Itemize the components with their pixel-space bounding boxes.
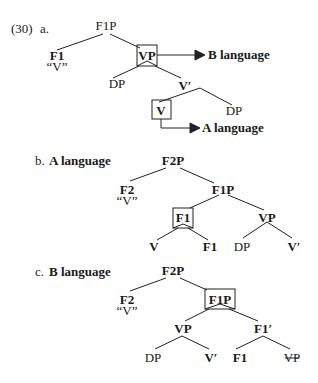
node-vp: VP: [258, 211, 275, 225]
node-v-bar: V′: [204, 351, 217, 365]
node-f1-bar: F1′: [254, 322, 272, 336]
node-f2p: F2P: [162, 264, 184, 278]
node-v: V: [149, 240, 158, 254]
arrow-label-a-language: A language: [202, 121, 264, 135]
node-f1p: F1P: [212, 183, 234, 197]
node-f2p: F2P: [162, 154, 184, 168]
node-dp: DP: [234, 240, 251, 254]
node-f2-gloss: “V”: [117, 304, 138, 318]
node-f1-boxed: F1: [176, 211, 190, 225]
arrow-label-b-language: B language: [208, 48, 270, 62]
node-f1: F1: [233, 351, 247, 365]
node-f1-gloss: “V”: [47, 60, 68, 74]
node-vp-trace-struck: VP: [284, 351, 301, 365]
node-f1p-boxed: F1P: [209, 293, 231, 307]
node-dp: DP: [145, 351, 162, 365]
node-vp-boxed: VP: [138, 49, 155, 63]
node-f1: F1: [203, 240, 217, 254]
subexample-label-b: b.: [35, 154, 45, 168]
section-title-b-language: B language: [49, 265, 111, 279]
subexample-label-c: c.: [35, 265, 44, 279]
node-v-bar: V′: [178, 79, 191, 93]
node-vp: VP: [174, 322, 191, 336]
node-f1p: F1P: [96, 19, 117, 33]
node-v-boxed: V: [156, 104, 165, 118]
node-dp-2: DP: [226, 104, 243, 118]
node-v-bar: V′: [287, 240, 300, 254]
example-number: (30): [11, 22, 33, 36]
section-title-a-language: A language: [49, 154, 111, 168]
node-dp: DP: [109, 77, 126, 91]
node-f2-gloss: “V”: [117, 194, 138, 208]
subexample-label-a: a.: [40, 22, 49, 36]
